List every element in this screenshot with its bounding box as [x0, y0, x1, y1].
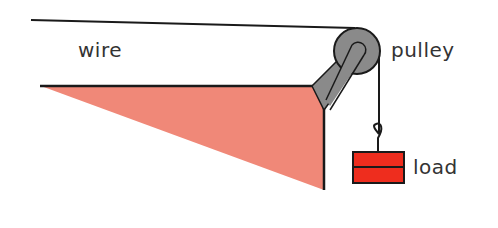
pulley-label: pulley — [391, 38, 455, 62]
pulley-diagram: wire pulley load — [0, 0, 498, 228]
support-triangle — [41, 86, 324, 190]
hook-icon — [374, 124, 381, 152]
wire-line — [31, 20, 355, 28]
wire-label: wire — [78, 38, 122, 62]
diagram-drawing — [0, 0, 498, 228]
load-label: load — [413, 155, 458, 179]
